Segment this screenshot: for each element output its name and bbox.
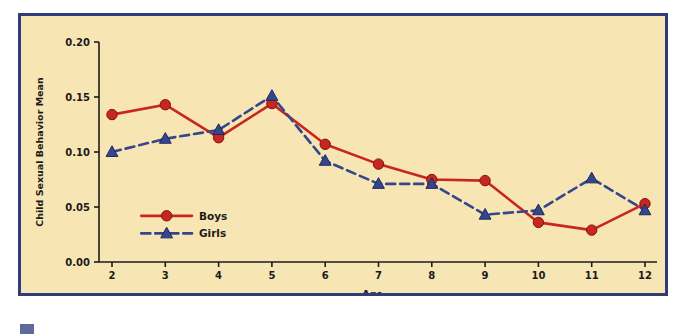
data-point-boys-age-7 [373,159,383,169]
data-point-girls-age-6 [319,155,331,166]
legend-marker-boys [161,211,171,221]
data-point-boys-age-11 [587,225,597,235]
y-axis-tick-label: 0.00 [65,257,90,268]
x-axis-tick-label: 12 [638,270,652,281]
y-axis-tick-label: 0.15 [65,92,90,103]
x-axis-tick-label: 6 [322,270,329,281]
chart-frame: 0.000.050.100.150.2023456789101112AgeChi… [18,13,668,296]
data-point-boys-age-6 [320,139,330,149]
x-axis-tick-label: 9 [482,270,489,281]
figure-container: 0.000.050.100.150.2023456789101112AgeChi… [0,0,684,335]
x-axis-tick-label: 4 [215,270,222,281]
data-point-girls-age-4 [213,124,225,135]
data-point-boys-age-9 [480,175,490,185]
legend-label-girls: Girls [199,227,226,239]
y-axis-tick-label: 0.10 [65,147,90,158]
series-line-girls [112,96,645,215]
data-point-boys-age-3 [160,100,170,110]
data-point-girls-age-5 [266,90,278,101]
corner-tag-square [20,324,34,334]
line-chart: 0.000.050.100.150.2023456789101112AgeChi… [21,16,665,293]
y-axis-title: Child Sexual Behavior Mean [34,77,45,227]
y-axis-tick-label: 0.05 [65,202,90,213]
x-axis-tick-label: 2 [109,270,116,281]
data-point-boys-age-2 [107,109,117,119]
x-axis-tick-label: 10 [531,270,545,281]
y-axis-tick-label: 0.20 [65,37,90,48]
x-axis-title: Age [362,288,383,293]
data-point-boys-age-10 [533,217,543,227]
x-axis-tick-label: 5 [268,270,275,281]
x-axis-tick-label: 7 [375,270,382,281]
x-axis-tick-label: 3 [162,270,169,281]
x-axis-tick-label: 11 [585,270,599,281]
legend-label-boys: Boys [199,210,227,222]
data-point-girls-age-11 [586,172,598,183]
x-axis-tick-label: 8 [428,270,435,281]
